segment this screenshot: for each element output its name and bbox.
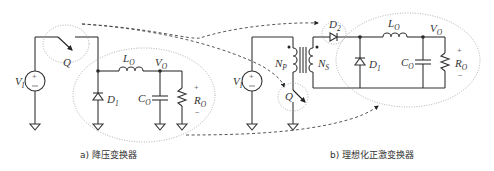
diode2-label: D2	[328, 18, 341, 33]
transformer-core	[300, 47, 306, 73]
diode-d2	[330, 33, 337, 41]
secondary-label: NS	[317, 57, 329, 72]
switch-q-a	[58, 37, 72, 50]
minus-sign: −	[195, 108, 200, 117]
ground-icon	[288, 124, 298, 130]
switch-label-b: Q	[285, 90, 293, 102]
primary-label: NP	[274, 57, 287, 72]
switch-label: Q	[63, 56, 71, 68]
resistor-label-b: RO	[454, 57, 468, 72]
arrow-switch-to-d2	[82, 23, 318, 38]
ground-icon	[247, 124, 257, 130]
primary-winding	[293, 48, 297, 72]
inductor-label: LO	[122, 52, 135, 67]
plus-sign-b: +	[457, 46, 462, 55]
ground-icon	[30, 124, 40, 130]
minus-sign-b: −	[458, 71, 463, 80]
capacitor-co-a	[152, 96, 168, 100]
circuit-diagram: + VI Q D1 LO VO	[0, 0, 494, 171]
arrow-output-stage	[186, 106, 378, 135]
ground-icon	[155, 124, 165, 130]
resistor-label: RO	[193, 94, 207, 109]
svg-text:+: +	[32, 72, 37, 81]
capacitor-label: CO	[138, 92, 151, 107]
output-voltage-label: VO	[155, 56, 168, 71]
inductor-label-b: LO	[387, 17, 400, 32]
diode1-label-b: D1	[368, 58, 381, 73]
switch-q-b	[293, 90, 305, 124]
resistor-ro-b	[441, 53, 449, 71]
inductor-lo-a	[119, 67, 143, 71]
buck-converter: + VI Q D1 LO VO	[15, 25, 215, 160]
diode-d1-b	[355, 58, 365, 65]
source-label-b: VI	[233, 75, 243, 90]
diode-d1-a	[93, 93, 103, 100]
output-voltage-label-b: VO	[430, 22, 443, 37]
diode-label: D1	[106, 93, 119, 108]
caption-a: a) 降压变换器	[80, 149, 137, 160]
forward-converter: + VI NP NS Q	[233, 13, 480, 160]
plus-sign: +	[194, 83, 199, 92]
secondary-winding	[309, 48, 313, 72]
resistor-ro-a	[178, 88, 186, 106]
source-label: VI	[15, 75, 25, 90]
voltage-source-a: +	[25, 37, 45, 130]
inductor-lo-b	[383, 33, 407, 37]
caption-b: b) 理想化正激变换器	[330, 149, 414, 160]
capacitor-co-b	[415, 60, 431, 64]
capacitor-label-b: CO	[401, 56, 414, 71]
ground-icon	[177, 124, 187, 130]
mapping-arrows	[82, 23, 378, 135]
svg-text:+: +	[249, 72, 254, 81]
